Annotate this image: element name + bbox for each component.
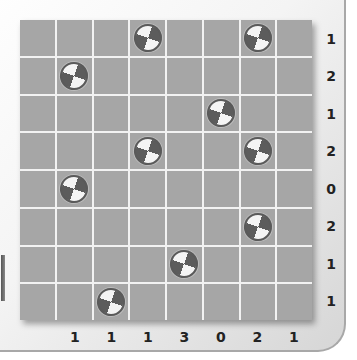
row-clue: 1 [318,20,344,58]
board-cell[interactable] [130,20,165,56]
board-cell[interactable] [167,133,202,169]
board-cell[interactable] [57,247,92,283]
board-cell[interactable] [277,284,312,320]
column-clue: 1 [276,322,313,352]
board-cell[interactable] [20,58,55,94]
board-cell[interactable] [241,58,276,94]
board-cell[interactable] [204,96,239,132]
board-cell[interactable] [57,171,92,207]
board-cell[interactable] [277,209,312,245]
board-cell[interactable] [20,284,55,320]
board-cell[interactable] [277,171,312,207]
quartered-disc-icon[interactable] [240,209,276,245]
quartered-disc-icon[interactable] [166,246,202,282]
row-clue: 2 [318,133,344,171]
column-clue: 3 [166,322,203,352]
quartered-disc-icon[interactable] [203,95,239,131]
board-cell[interactable] [20,133,55,169]
board-cell[interactable] [167,209,202,245]
board-cell[interactable] [130,96,165,132]
row-clue: 2 [318,58,344,96]
board-cell[interactable] [57,20,92,56]
board-cell[interactable] [167,284,202,320]
quartered-disc-icon[interactable] [93,284,129,320]
row-clue: 0 [318,170,344,208]
board-cell[interactable] [94,20,129,56]
board-cell[interactable] [277,20,312,56]
board-cell[interactable] [204,209,239,245]
row-clues: 12120211 [318,20,344,320]
board-cell[interactable] [204,247,239,283]
row-clue: 1 [318,95,344,133]
board-cell[interactable] [277,96,312,132]
board-cell[interactable] [241,171,276,207]
board-cell[interactable] [20,171,55,207]
board-cell[interactable] [277,58,312,94]
board-cell[interactable] [57,284,92,320]
board-cell[interactable] [241,96,276,132]
board-cell[interactable] [130,133,165,169]
board-cell[interactable] [20,209,55,245]
board-cell[interactable] [167,171,202,207]
board-cell[interactable] [241,247,276,283]
column-clue: 2 [239,322,276,352]
quartered-disc-icon[interactable] [130,20,166,56]
column-clues: 1113021 [20,322,312,352]
board-cell[interactable] [57,96,92,132]
board-cell[interactable] [130,209,165,245]
board-cell[interactable] [204,284,239,320]
board-cell[interactable] [167,96,202,132]
quartered-disc-icon[interactable] [56,171,92,207]
board-cell[interactable] [130,247,165,283]
board-cell[interactable] [204,20,239,56]
column-clue [20,322,57,352]
board-cell[interactable] [130,58,165,94]
column-clue: 0 [203,322,240,352]
board-cell[interactable] [94,209,129,245]
board-cell[interactable] [241,284,276,320]
board-cell[interactable] [241,133,276,169]
column-clue: 1 [130,322,167,352]
board-cell[interactable] [167,58,202,94]
board-cell[interactable] [167,20,202,56]
quartered-disc-icon[interactable] [56,58,92,94]
game-board [20,20,312,320]
row-clue: 2 [318,208,344,246]
board-cell[interactable] [277,133,312,169]
board-cell[interactable] [241,20,276,56]
row-clue: 1 [318,245,344,283]
board-cell[interactable] [20,20,55,56]
board-cell[interactable] [241,209,276,245]
board-cell[interactable] [130,284,165,320]
board-cell[interactable] [94,58,129,94]
background-element-edge [1,255,5,301]
quartered-disc-icon[interactable] [240,133,276,169]
board-cell[interactable] [94,284,129,320]
column-clue: 1 [57,322,94,352]
board-cell[interactable] [94,171,129,207]
board-cell[interactable] [277,247,312,283]
board-cell[interactable] [94,96,129,132]
board-cell[interactable] [204,58,239,94]
board-cell[interactable] [167,247,202,283]
board-cell[interactable] [20,96,55,132]
board-cell[interactable] [20,247,55,283]
board-cell[interactable] [204,171,239,207]
board-cell[interactable] [204,133,239,169]
board-cell[interactable] [57,133,92,169]
row-clue: 1 [318,283,344,321]
board-cell[interactable] [57,58,92,94]
column-clue: 1 [93,322,130,352]
board-cell[interactable] [94,133,129,169]
board-cell[interactable] [94,247,129,283]
quartered-disc-icon[interactable] [130,133,166,169]
quartered-disc-icon[interactable] [240,20,276,56]
board-cell[interactable] [130,171,165,207]
board-cell[interactable] [57,209,92,245]
